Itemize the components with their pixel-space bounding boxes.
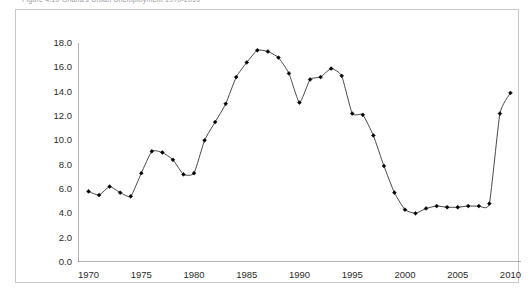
x-axis-tick-label: 1990 — [289, 270, 310, 280]
data-point-marker — [477, 204, 481, 208]
data-point-marker — [487, 202, 491, 206]
data-point-marker — [287, 72, 291, 76]
data-point-marker — [87, 190, 91, 194]
data-point-marker — [329, 67, 333, 71]
y-axis-tick-label: 12.0 — [54, 111, 73, 121]
data-point-marker — [234, 75, 238, 79]
x-axis-tick-label: 2010 — [500, 270, 521, 280]
data-point-marker — [435, 204, 439, 208]
data-point-marker — [108, 185, 112, 189]
data-point-marker — [456, 205, 460, 209]
x-axis-tick-label: 1985 — [236, 270, 257, 280]
data-point-marker — [382, 164, 386, 168]
data-point-marker — [445, 205, 449, 209]
y-axis-tick-label: 2.0 — [59, 233, 72, 243]
data-point-marker — [213, 120, 217, 124]
data-point-marker — [308, 78, 312, 82]
data-point-marker — [466, 204, 470, 208]
y-axis-tick-label: 16.0 — [54, 62, 73, 72]
chart-page: Figure 4.10 Ghana's Urban Unemployment 1… — [0, 0, 532, 295]
data-point-marker — [266, 50, 270, 54]
plot-area: 0.02.04.06.08.010.012.014.016.018.0 1970… — [78, 43, 521, 262]
data-point-marker — [224, 102, 228, 106]
data-point-marker — [498, 112, 502, 116]
x-axis-tick-labels: 197019751980198519901995200020052010 — [78, 262, 521, 286]
chart-svg — [78, 43, 521, 262]
figure-caption-strip: Figure 4.10 Ghana's Urban Unemployment 1… — [0, 0, 532, 8]
chart-frame: Unemployment Rate % 0.02.04.06.08.010.01… — [15, 9, 519, 283]
x-axis-tick-label: 2000 — [394, 270, 415, 280]
data-point-marker — [424, 207, 428, 211]
data-point-marker — [203, 138, 207, 142]
data-point-marker — [414, 211, 418, 215]
data-point-marker — [160, 151, 164, 155]
x-axis-tick-label: 2005 — [447, 270, 468, 280]
y-axis-tick-label: 6.0 — [59, 184, 72, 194]
data-series-line — [89, 50, 511, 213]
y-axis-tick-label: 14.0 — [54, 87, 73, 97]
data-point-marker — [139, 171, 143, 175]
data-point-marker — [371, 134, 375, 138]
x-axis-tick-label: 1980 — [183, 270, 204, 280]
y-axis-tick-label: 8.0 — [59, 160, 72, 170]
y-axis-tick-label: 4.0 — [59, 208, 72, 218]
x-axis-tick-label: 1995 — [342, 270, 363, 280]
figure-caption: Figure 4.10 Ghana's Urban Unemployment 1… — [22, 0, 200, 3]
data-point-marker — [118, 191, 122, 195]
x-axis-tick-label: 1970 — [78, 270, 99, 280]
y-axis-tick-label: 0.0 — [59, 257, 72, 267]
x-axis-tick-label: 1975 — [131, 270, 152, 280]
data-point-marker — [393, 191, 397, 195]
y-axis-tick-label: 10.0 — [54, 135, 73, 145]
y-axis-tick-labels: 0.02.04.06.08.010.012.014.016.018.0 — [30, 43, 72, 262]
y-axis-tick-label: 18.0 — [54, 38, 73, 48]
